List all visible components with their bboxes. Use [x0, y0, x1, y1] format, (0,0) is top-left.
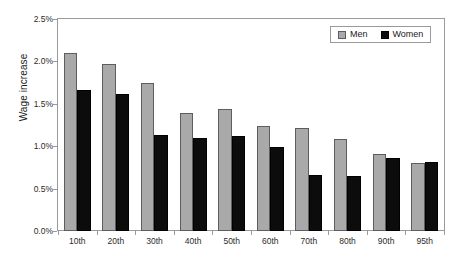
bar-men-80th [334, 139, 348, 231]
x-axis-tick-label: 70th [301, 236, 318, 246]
bar-men-20th [102, 64, 116, 231]
bar-group [97, 19, 136, 231]
bar-women-10th [77, 90, 91, 231]
legend-label-women: Women [393, 30, 424, 39]
y-axis-tick-label: 1.5% [13, 100, 53, 109]
bar-group [405, 19, 444, 231]
bar-group [290, 19, 329, 231]
bar-men-60th [257, 126, 271, 231]
wage-increase-bar-chart: Wage increase 0.0%0.5%1.0%1.5%2.0%2.5% 1… [0, 0, 459, 268]
bar-women-70th [309, 175, 323, 231]
bar-men-30th [141, 83, 155, 231]
y-axis-title: Wage increase [18, 18, 29, 158]
y-axis-tick-label: 0.5% [13, 184, 53, 193]
x-axis-tick-mark [251, 231, 252, 235]
y-axis-tick-label: 2.5% [13, 15, 53, 24]
bar-group [212, 19, 251, 231]
bar-men-70th [295, 128, 309, 231]
x-axis-tick-mark [135, 231, 136, 235]
bar-group [328, 19, 367, 231]
bar-men-10th [64, 53, 78, 231]
bar-women-40th [193, 138, 207, 231]
bar-group [135, 19, 174, 231]
x-axis-tick-label: 40th [185, 236, 202, 246]
bar-men-50th [218, 109, 232, 231]
x-axis-tick-label: 30th [146, 236, 163, 246]
bars-area [58, 19, 444, 231]
x-axis-tick-mark [212, 231, 213, 235]
y-axis-tick-mark [53, 231, 57, 232]
x-axis-tick-mark [290, 231, 291, 235]
x-axis-tick-mark [405, 231, 406, 235]
x-axis-tick-label: 20th [108, 236, 125, 246]
x-axis-tick-mark [97, 231, 98, 235]
legend-swatch-men-icon [338, 31, 346, 39]
bar-group [251, 19, 290, 231]
bar-women-50th [232, 136, 246, 231]
bar-men-95th [411, 163, 425, 231]
bar-women-80th [347, 176, 361, 231]
bar-women-20th [116, 94, 130, 231]
x-axis-tick-label: 50th [223, 236, 240, 246]
bar-women-30th [154, 135, 168, 231]
y-axis-tick-label: 1.0% [13, 142, 53, 151]
x-axis-tick-label: 95th [416, 236, 433, 246]
x-axis-tick-mark [444, 231, 445, 235]
bar-men-40th [180, 113, 194, 231]
bar-men-90th [373, 154, 387, 231]
legend-entry-men: Men [338, 30, 368, 39]
x-axis-tick-mark [174, 231, 175, 235]
x-axis-tick-label: 60th [262, 236, 279, 246]
bar-group [174, 19, 213, 231]
x-axis-tick-label: 80th [339, 236, 356, 246]
x-axis-tick-mark [58, 231, 59, 235]
y-axis-tick-label: 2.0% [13, 57, 53, 66]
x-axis-tick-label: 90th [378, 236, 395, 246]
bar-women-60th [270, 147, 284, 231]
legend-swatch-women-icon [381, 31, 389, 39]
legend-label-men: Men [350, 30, 368, 39]
x-axis-tick-label: 10th [69, 236, 86, 246]
legend-entry-women: Women [381, 30, 424, 39]
y-axis-tick-label: 0.0% [13, 227, 53, 236]
bar-women-90th [386, 158, 400, 231]
x-axis-tick-mark [328, 231, 329, 235]
bar-women-95th [425, 162, 439, 231]
chart-legend: Men Women [330, 26, 431, 43]
bar-group [367, 19, 406, 231]
bar-group [58, 19, 97, 231]
x-axis-tick-mark [367, 231, 368, 235]
